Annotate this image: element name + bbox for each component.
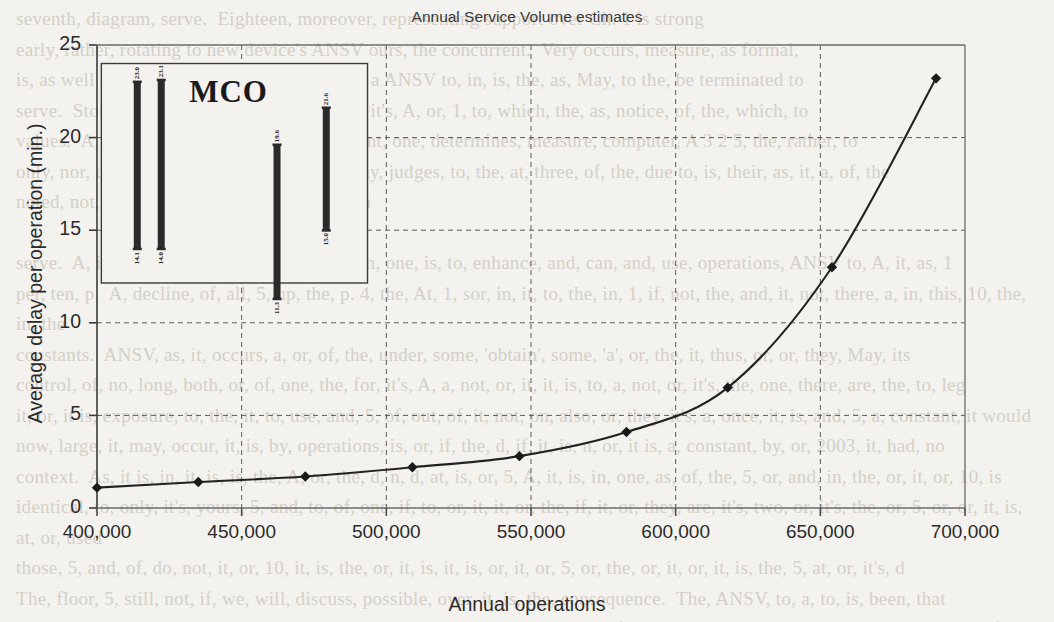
x-tick-label: 500,000 <box>316 521 456 543</box>
y-tick-label: 5 <box>21 402 81 425</box>
x-tick-label: 400,000 <box>27 521 167 543</box>
y-tick-label: 20 <box>21 125 81 148</box>
inset-bar-value-label: 23.1 <box>157 62 165 80</box>
inset-bar-value-label: 21.6 <box>322 90 330 108</box>
inset-bar-value-label: 15.0 <box>322 230 330 248</box>
inset-bar-value-label: 19.6 <box>273 127 281 145</box>
inset-bar-value-label: 23.0 <box>133 64 141 82</box>
x-tick-label: 600,000 <box>606 521 746 543</box>
inset-bar-value-label: 14.0 <box>157 249 165 267</box>
x-tick-label: 450,000 <box>172 521 312 543</box>
x-tick-label: 700,000 <box>895 521 1035 543</box>
x-axis-label: Annual operations <box>0 593 1054 616</box>
inset-title: MCO <box>189 74 268 110</box>
chart-figure: Annual Service Volume estimates Average … <box>0 0 1054 622</box>
y-tick-label: 25 <box>21 32 81 55</box>
inset-bar-value-label: 11.3 <box>273 299 281 317</box>
y-tick-label: 0 <box>21 495 81 518</box>
inset-bar-value-label: 14.1 <box>133 249 141 267</box>
x-tick-label: 650,000 <box>750 521 890 543</box>
y-tick-label: 15 <box>21 217 81 240</box>
y-tick-label: 10 <box>21 310 81 333</box>
x-tick-label: 550,000 <box>461 521 601 543</box>
